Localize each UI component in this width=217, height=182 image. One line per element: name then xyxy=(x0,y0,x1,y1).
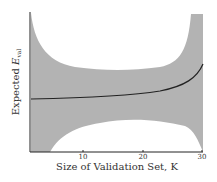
variance-band xyxy=(31,13,203,152)
y-axis-label: Expected Eval xyxy=(10,49,22,116)
chart: 10 20 30 Size of Validation Set, K Expec… xyxy=(0,0,217,182)
x-tick-30: 30 xyxy=(198,153,207,161)
x-tick-10: 10 xyxy=(79,153,88,161)
x-axis-label: Size of Validation Set, K xyxy=(56,161,178,172)
x-tick-20: 20 xyxy=(139,153,148,161)
